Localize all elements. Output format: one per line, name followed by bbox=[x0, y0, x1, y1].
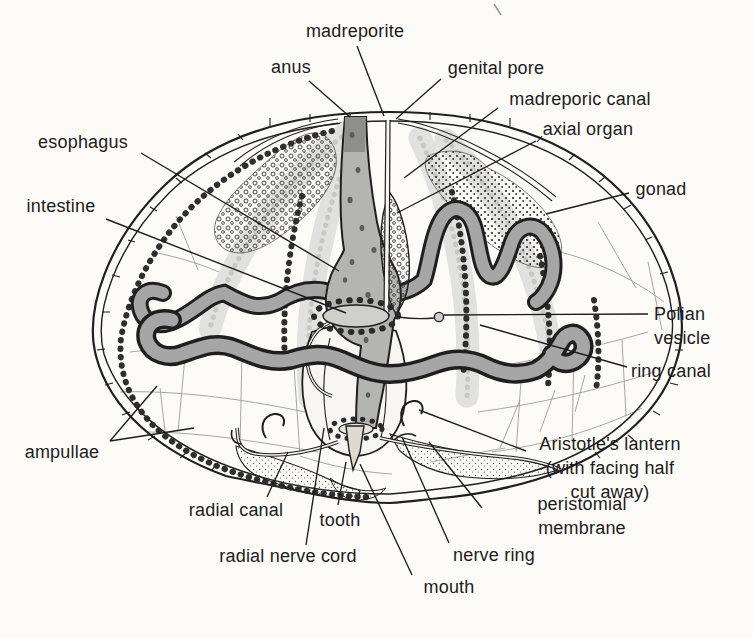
label-radial-nerve-cord: radial nerve cord bbox=[219, 545, 356, 569]
label-gonad: gonad bbox=[635, 178, 686, 202]
label-esophagus: esophagus bbox=[38, 131, 128, 155]
label-ring-canal: ring canal bbox=[631, 360, 711, 384]
label-radial-canal: radial canal bbox=[189, 499, 283, 523]
label-mouth: mouth bbox=[423, 576, 474, 600]
label-intestine: intestine bbox=[27, 195, 96, 219]
label-tooth: tooth bbox=[319, 509, 360, 533]
spine-tick bbox=[494, 4, 501, 15]
label-polian-vesicle: Polian vesicle bbox=[654, 303, 726, 351]
leader-madreporite bbox=[357, 46, 384, 116]
leader-anus bbox=[309, 81, 350, 117]
diagram-page: madreporite anus genital pore madreporic… bbox=[0, 0, 753, 638]
label-nerve-ring: nerve ring bbox=[453, 544, 535, 568]
label-madreporite: madreporite bbox=[306, 20, 404, 44]
label-ampullae: ampullae bbox=[25, 441, 100, 465]
label-madreporic-canal: madreporic canal bbox=[509, 88, 650, 112]
label-peristomial-membrane: peristomial membrane bbox=[497, 493, 668, 541]
polian-vesicle-shape bbox=[434, 312, 443, 321]
anus-tube bbox=[344, 117, 366, 152]
label-anus: anus bbox=[271, 56, 311, 80]
label-genital-pore: genital pore bbox=[448, 57, 544, 81]
label-axial-organ: axial organ bbox=[543, 118, 633, 142]
